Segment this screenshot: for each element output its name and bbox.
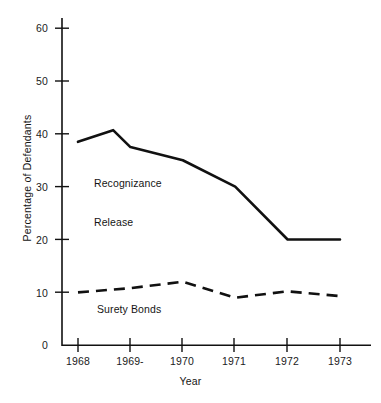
x-tick-label-1970: 1970 (159, 355, 205, 367)
x-tick-label-1969: 1969- (107, 355, 153, 367)
y-axis-title: Percentage of Defendants (21, 98, 33, 258)
y-tick-label-0: 0 (22, 339, 48, 351)
annotation-recognizance-release: Recognizance Release (94, 151, 162, 255)
x-axis-title: Year (0, 375, 381, 387)
y-tick-label-60: 60 (22, 22, 48, 34)
annotation-surety-bonds: Surety Bonds (97, 303, 161, 316)
chart-plot-area (0, 0, 381, 403)
annotation-recognizance-line1: Recognizance (94, 177, 162, 190)
x-tick-label-1972: 1972 (264, 355, 310, 367)
annotation-recognizance-line2: Release (94, 216, 162, 229)
line-chart-figure: 60 50 40 30 20 10 0 1968 1969- 1970 1971… (0, 0, 381, 403)
series-line-surety-bonds (78, 282, 340, 298)
x-tick-label-1973: 1973 (317, 355, 363, 367)
y-tick-label-10: 10 (22, 287, 48, 299)
y-tick-label-50: 50 (22, 75, 48, 87)
x-tick-label-1968: 1968 (55, 355, 101, 367)
x-tick-label-1971: 1971 (211, 355, 257, 367)
